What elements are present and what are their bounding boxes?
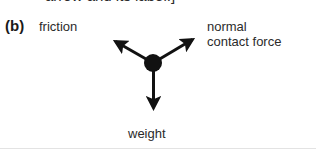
figure-panel: arrow and its label.] (b) friction norma… [0, 0, 316, 149]
figure-bottom-rule [0, 148, 316, 149]
normal-label-line1: normal [207, 19, 247, 34]
body-point-dot [144, 54, 162, 72]
friction-label: friction [39, 19, 77, 34]
normal-contact-force-label: normal contact force [207, 19, 315, 49]
normal-label-line2: contact force [207, 34, 281, 49]
weight-label: weight [128, 126, 166, 141]
